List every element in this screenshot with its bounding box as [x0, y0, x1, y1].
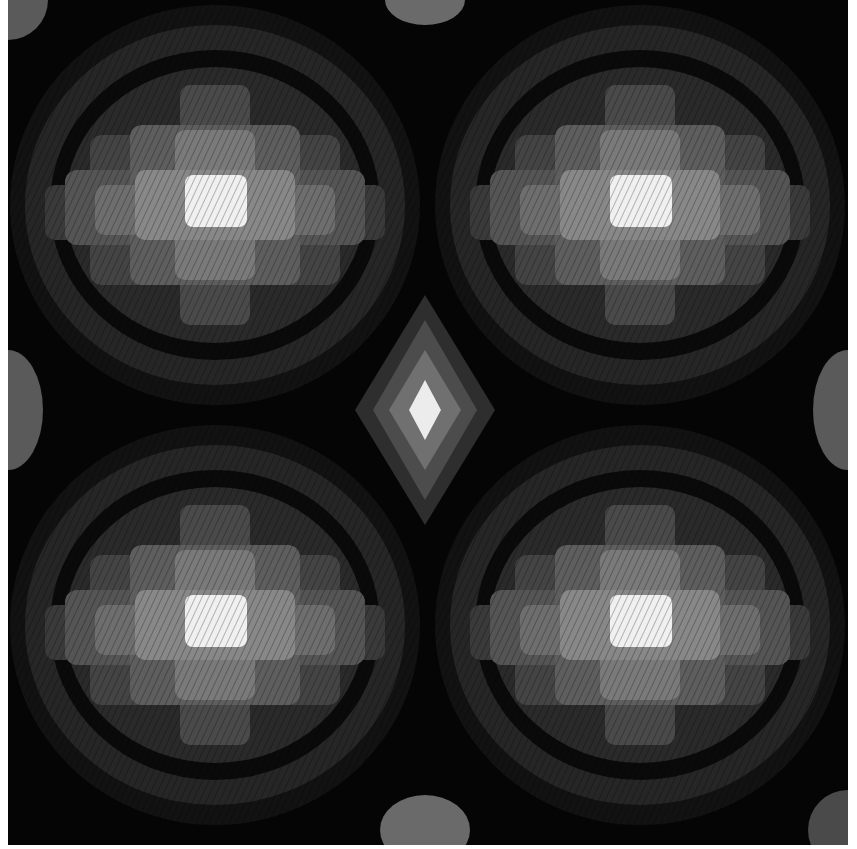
- medallion-bottom-right: [435, 425, 845, 825]
- medallion-top-left: [10, 5, 420, 405]
- embroidery-photo: Four large concentric stepped-block meda…: [8, 0, 848, 845]
- pattern-graphic: [8, 0, 848, 845]
- medallion-bottom-left: [10, 425, 420, 825]
- medallion-top-right: [435, 5, 845, 405]
